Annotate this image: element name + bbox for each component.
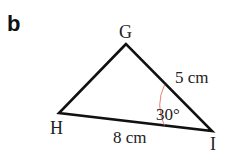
side-label-gi: 5 cm [175,68,209,87]
part-label: b [7,11,20,36]
angle-label-i: 30° [156,105,180,124]
vertex-label-i: I [210,134,216,151]
vertex-label-h: H [50,118,63,138]
side-label-hi: 8 cm [113,128,147,147]
triangle-diagram: b G H I 5 cm 8 cm 30° [0,0,232,151]
triangle-ghi [59,44,212,131]
diagram-svg: b G H I 5 cm 8 cm 30° [0,0,232,151]
vertex-label-g: G [119,22,132,42]
